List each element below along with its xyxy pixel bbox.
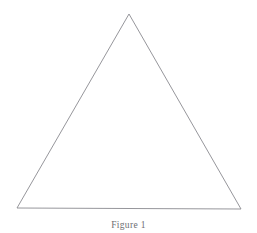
- triangle-figure-canvas: [0, 0, 257, 233]
- figure-caption: Figure 1: [0, 220, 257, 231]
- figure-page: Figure 1: [0, 0, 257, 233]
- triangle-shape: [17, 14, 241, 209]
